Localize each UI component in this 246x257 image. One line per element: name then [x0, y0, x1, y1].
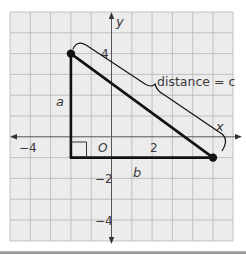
- x-tick-label-2: 2: [150, 141, 158, 155]
- hypotenuse-label: distance = c: [157, 74, 235, 89]
- y-tick-label-neg2: −2: [95, 172, 113, 186]
- origin-label: O: [98, 141, 107, 155]
- y-tick-label-neg4: −4: [95, 214, 113, 228]
- vertex-top-point: [67, 49, 75, 57]
- coordinate-diagram: y x O −4 2 4 −2 −4 a b distance = c: [0, 0, 246, 257]
- x-tick-label-neg4: −4: [19, 141, 37, 155]
- grid-background: [10, 12, 233, 241]
- vertex-right-point: [209, 153, 217, 161]
- bottom-divider: [0, 251, 246, 254]
- x-axis-right-arrow-icon: [235, 134, 242, 140]
- leg-b-label: b: [133, 165, 141, 180]
- leg-a-label: a: [56, 94, 64, 109]
- y-axis-label: y: [115, 14, 124, 29]
